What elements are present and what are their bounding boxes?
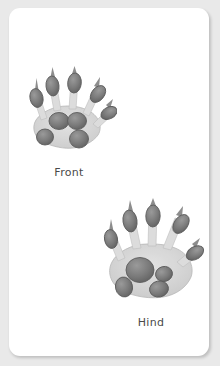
front-paw-print-illustration [21, 66, 117, 162]
front-paw-figure: Front [21, 66, 117, 191]
illustration-card: Front [9, 8, 209, 356]
front-paw-caption: Front [21, 166, 117, 179]
hind-paw-print-illustration [95, 198, 207, 310]
hind-paw-caption: Hind [95, 316, 207, 329]
hind-paw-figure: Hind [95, 198, 207, 340]
